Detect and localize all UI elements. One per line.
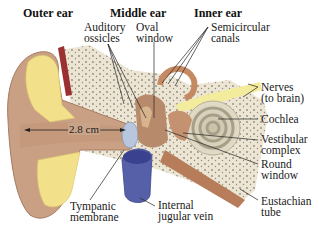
label-vestibular-complex: Vestibular complex (261, 134, 308, 156)
region-inner-ear: Inner ear (194, 6, 242, 21)
label-internal-jugular-vein: Internal jugular vein (158, 200, 213, 222)
label-tympanic-membrane: Tympanic membrane (70, 201, 119, 223)
region-outer-ear: Outer ear (23, 6, 73, 21)
label-semicircular-canals: Semicircular canals (211, 22, 270, 44)
label-cochlea: Cochlea (261, 114, 299, 125)
label-auditory-ossicles: Auditory ossicles (84, 22, 126, 44)
tympanic-membrane-shape (122, 122, 138, 148)
label-nerves: Nerves (to brain) (261, 82, 304, 104)
ear-anatomy-diagram: Outer ear Middle ear Inner ear Auditory … (0, 0, 319, 232)
label-oval-window: Oval window (136, 22, 173, 44)
fat-tissue-lower (37, 152, 80, 207)
measurement-label: 2.8 cm (68, 123, 100, 135)
region-middle-ear: Middle ear (110, 6, 166, 21)
label-eustachian-tube: Eustachian tube (261, 196, 311, 218)
label-round-window: Round window (261, 159, 298, 181)
middle-ear-cavity (135, 95, 168, 148)
